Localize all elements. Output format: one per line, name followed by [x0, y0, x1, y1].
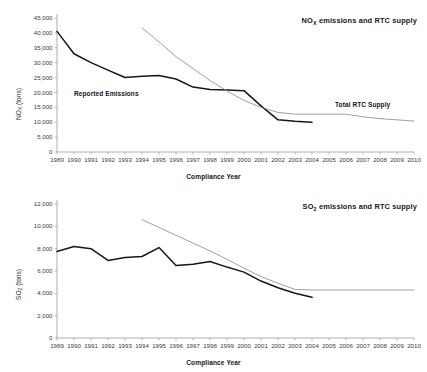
svg-text:2000: 2000: [237, 156, 251, 163]
chart-plot-sox: 02,0004,0006,0008,00010,00012,0001989199…: [0, 186, 427, 372]
svg-text:4,000: 4,000: [37, 289, 53, 296]
svg-text:1995: 1995: [152, 156, 166, 163]
svg-text:1998: 1998: [203, 156, 217, 163]
svg-text:1989: 1989: [50, 156, 64, 163]
svg-text:0: 0: [49, 148, 53, 155]
svg-text:2001: 2001: [254, 156, 268, 163]
svg-text:1999: 1999: [220, 156, 234, 163]
svg-text:40,000: 40,000: [34, 29, 53, 36]
svg-text:2000: 2000: [237, 342, 251, 349]
svg-text:2008: 2008: [373, 342, 387, 349]
svg-text:1998: 1998: [203, 342, 217, 349]
svg-text:1994: 1994: [135, 156, 149, 163]
svg-text:2003: 2003: [288, 342, 302, 349]
svg-text:5,000: 5,000: [37, 133, 53, 140]
svg-text:2004: 2004: [305, 156, 319, 163]
svg-text:2006: 2006: [339, 156, 353, 163]
svg-text:1992: 1992: [101, 156, 115, 163]
y-axis-label-nox: NOX (tons): [15, 88, 22, 120]
svg-text:35,000: 35,000: [34, 44, 53, 51]
svg-text:2003: 2003: [288, 156, 302, 163]
svg-text:10,000: 10,000: [34, 222, 53, 229]
svg-text:1992: 1992: [101, 342, 115, 349]
svg-text:2007: 2007: [356, 342, 370, 349]
svg-text:1995: 1995: [152, 342, 166, 349]
svg-text:0: 0: [49, 334, 53, 341]
svg-text:1996: 1996: [169, 156, 183, 163]
svg-text:1991: 1991: [84, 156, 98, 163]
chart-plot-nox: 05,00010,00015,00020,00025,00030,00035,0…: [0, 0, 427, 186]
svg-text:1999: 1999: [220, 342, 234, 349]
svg-text:2,000: 2,000: [37, 312, 53, 319]
svg-text:2008: 2008: [373, 156, 387, 163]
figure-container: 05,00010,00015,00020,00025,00030,00035,0…: [0, 0, 427, 372]
svg-text:1990: 1990: [67, 342, 81, 349]
svg-text:10,000: 10,000: [34, 118, 53, 125]
svg-text:1993: 1993: [118, 156, 132, 163]
svg-text:15,000: 15,000: [34, 103, 53, 110]
chart-title-nox: NOX emissions and RTC supply: [302, 16, 417, 25]
svg-text:1990: 1990: [67, 156, 81, 163]
svg-text:2005: 2005: [322, 342, 336, 349]
svg-text:1997: 1997: [186, 342, 200, 349]
svg-text:6,000: 6,000: [37, 267, 53, 274]
svg-text:2010: 2010: [407, 156, 421, 163]
svg-text:2002: 2002: [271, 156, 285, 163]
series-annotation-total-rtc-supply-nox: Total RTC Supply: [335, 101, 390, 108]
svg-text:2006: 2006: [339, 342, 353, 349]
svg-text:8,000: 8,000: [37, 245, 53, 252]
chart-panel-nox: 05,00010,00015,00020,00025,00030,00035,0…: [0, 0, 427, 186]
svg-text:2005: 2005: [322, 156, 336, 163]
chart-title-sox: SO2 emissions and RTC supply: [303, 202, 417, 211]
svg-text:2009: 2009: [390, 156, 404, 163]
svg-text:1994: 1994: [135, 342, 149, 349]
svg-text:1989: 1989: [50, 342, 64, 349]
svg-text:2007: 2007: [356, 156, 370, 163]
svg-text:45,000: 45,000: [34, 14, 53, 21]
chart-panel-sox: 02,0004,0006,0008,00010,00012,0001989199…: [0, 186, 427, 372]
svg-text:1997: 1997: [186, 156, 200, 163]
svg-text:2001: 2001: [254, 342, 268, 349]
svg-text:25,000: 25,000: [34, 74, 53, 81]
svg-text:1993: 1993: [118, 342, 132, 349]
svg-text:2004: 2004: [305, 342, 319, 349]
svg-text:30,000: 30,000: [34, 59, 53, 66]
svg-text:2010: 2010: [407, 342, 421, 349]
y-axis-label-sox: SO2 (tons): [15, 269, 22, 300]
svg-text:20,000: 20,000: [34, 89, 53, 96]
x-axis-label-nox: Compliance Year: [0, 173, 427, 180]
svg-text:12,000: 12,000: [34, 200, 53, 207]
svg-text:2009: 2009: [390, 342, 404, 349]
svg-text:1996: 1996: [169, 342, 183, 349]
svg-text:1991: 1991: [84, 342, 98, 349]
x-axis-label-sox: Compliance Year: [0, 359, 427, 366]
svg-text:2002: 2002: [271, 342, 285, 349]
series-annotation-reported-emissions-nox: Reported Emissions: [74, 90, 139, 97]
